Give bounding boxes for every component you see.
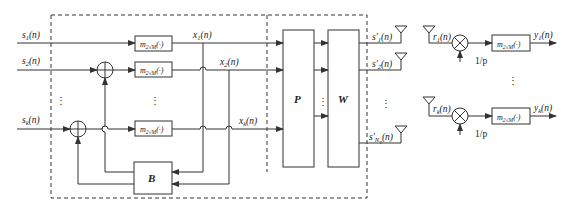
x1-feedback (172, 43, 203, 172)
ellipsis-tx: ⋮ (381, 99, 391, 109)
label-xk: xk(n) (238, 116, 257, 127)
label-gain-k: 1/p (475, 129, 487, 139)
modulo-label: m2√M(·) (140, 66, 164, 76)
label-s1-prime: s′1(n) (372, 32, 392, 43)
ellipsis-rx: ⋮ (508, 76, 518, 86)
rx-modulo-label: m2√M(·) (497, 40, 521, 50)
label-x2: x2(n) (219, 57, 239, 68)
label-W: W (338, 93, 349, 105)
tx-antenna-icon (395, 53, 407, 60)
modulo-label: m2√M(·) (140, 125, 164, 135)
ellipsis-inputs: ⋮ (56, 96, 66, 106)
b-to-adder-2 (102, 78, 134, 172)
label-s1: s1(n) (22, 30, 40, 41)
label-B: B (147, 172, 155, 184)
adder-k (70, 121, 86, 137)
label-r1: r1(n) (433, 32, 451, 43)
ellipsis-modulo: ⋮ (150, 96, 160, 106)
ellipsis-pw: ⋮ (318, 97, 328, 107)
rx-antenna-icon (423, 97, 435, 104)
label-gain-1: 1/p (475, 56, 487, 66)
multiplier-k (452, 108, 468, 124)
tx-antenna-icon (395, 126, 407, 133)
modulo-label: m2√M(·) (140, 40, 164, 50)
adder-2 (97, 62, 113, 78)
block-diagram: s1(n) s2(n) sk(n) ⋮ ⋮ ⋮ ⋮ ⋮ m2√M(·) m2√M… (0, 0, 569, 214)
label-x1: x1(n) (192, 30, 212, 41)
xk-line (172, 126, 283, 129)
x2-line (172, 67, 283, 70)
label-yk: yk(n) (533, 103, 552, 114)
label-s2-prime: s′2(n) (372, 59, 392, 70)
b-to-adder-k (78, 137, 134, 184)
multiplier-1 (452, 35, 468, 51)
rx-modulo-label: m2√M(·) (497, 113, 521, 123)
label-rk: rk(n) (433, 104, 451, 115)
label-y1: y1(n) (533, 30, 553, 41)
tx-antenna-icon (395, 26, 407, 33)
label-P: P (294, 93, 301, 105)
label-s2: s2(n) (22, 56, 40, 67)
label-sk: sk(n) (22, 115, 40, 126)
